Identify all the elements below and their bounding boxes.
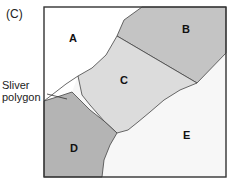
- label-d: D: [70, 142, 78, 154]
- label-a: A: [69, 32, 77, 44]
- label-e: E: [183, 129, 190, 141]
- label-c: C: [120, 74, 128, 86]
- polygon-map: A B C D E: [0, 0, 230, 181]
- label-b: B: [182, 23, 190, 35]
